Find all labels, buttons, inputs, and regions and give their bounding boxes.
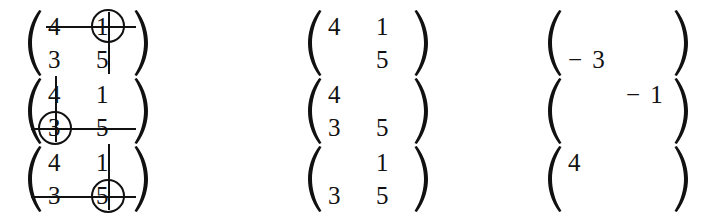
cell-r1c1 [564, 78, 618, 111]
right-parenthesis-icon [412, 78, 428, 144]
left-parenthesis-icon [28, 10, 44, 76]
cell-r1c1: 4 [44, 146, 88, 179]
minor-matrix-row-3-cells: 1 3 5 [324, 146, 412, 212]
cell-r1c2 [368, 78, 412, 111]
cofactor-matrix-row-3: 4 [548, 146, 688, 212]
circled-entry-marker [91, 179, 125, 213]
cell-r1c2: 1 [368, 10, 412, 43]
cell-r2c1: 3 [324, 111, 368, 144]
cofactor-value: − 1 [618, 78, 672, 111]
original-matrix-row-2: 4 1 3 5 [28, 78, 148, 144]
cell-r1c1: 4 [324, 78, 368, 111]
right-parenthesis-icon [672, 146, 688, 212]
minor-matrix-row-1: 4 1 5 [308, 10, 428, 76]
right-parenthesis-icon [672, 78, 688, 144]
minor-matrix-row-2: 4 3 5 [308, 78, 428, 144]
left-parenthesis-icon [548, 10, 564, 76]
cell-r1c2: 1 [88, 146, 132, 179]
cofactor-value: − 3 [564, 43, 618, 76]
minor-matrix-row-1-cells: 4 1 5 [324, 10, 412, 76]
cofactor-figure: 4 1 3 5 4 1 3 5 [0, 0, 701, 218]
cell-r2c1: 3 [44, 43, 88, 76]
cell-r2c2 [618, 179, 672, 212]
left-parenthesis-icon [308, 10, 324, 76]
right-parenthesis-icon [672, 10, 688, 76]
cell-r2c1 [564, 111, 618, 144]
cell-r2c1 [324, 43, 368, 76]
cell-r1c2 [618, 146, 672, 179]
cell-r1c1: 4 [324, 10, 368, 43]
cofactor-matrix-row-1-cells: − 3 [564, 10, 672, 76]
cell-r1c2 [618, 10, 672, 43]
right-parenthesis-icon [412, 146, 428, 212]
cell-r1c2: 1 [88, 78, 132, 111]
minor-matrix-row-2-cells: 4 3 5 [324, 78, 412, 144]
cell-r2c1 [564, 179, 618, 212]
left-parenthesis-icon [548, 78, 564, 144]
circled-entry-marker [91, 9, 125, 43]
cofactor-matrix-row-1: − 3 [548, 10, 688, 76]
left-parenthesis-icon [308, 146, 324, 212]
cell-r1c1 [324, 146, 368, 179]
cofactor-matrix-row-2: − 1 [548, 78, 688, 144]
left-parenthesis-icon [308, 78, 324, 144]
cell-r2c2: 5 [368, 43, 412, 76]
right-parenthesis-icon [132, 78, 148, 144]
cell-r2c2 [618, 43, 672, 76]
original-matrix-row-3: 4 1 3 5 [28, 146, 148, 212]
cofactor-value: 4 [564, 146, 618, 179]
cell-r2c2 [618, 111, 672, 144]
right-parenthesis-icon [132, 146, 148, 212]
cell-r1c1: 4 [44, 78, 88, 111]
circled-entry-marker [38, 111, 72, 145]
left-parenthesis-icon [548, 146, 564, 212]
right-parenthesis-icon [412, 10, 428, 76]
cell-r1c1 [564, 10, 618, 43]
cell-r2c2: 5 [88, 43, 132, 76]
original-matrix-row-1: 4 1 3 5 [28, 10, 148, 76]
minor-matrix-row-3: 1 3 5 [308, 146, 428, 212]
cofactor-matrix-row-3-cells: 4 [564, 146, 672, 212]
right-parenthesis-icon [132, 10, 148, 76]
cofactor-matrix-row-2-cells: − 1 [564, 78, 672, 144]
cell-r2c2: 5 [368, 111, 412, 144]
cell-r2c1: 3 [324, 179, 368, 212]
left-parenthesis-icon [28, 146, 44, 212]
cell-r2c2: 5 [368, 179, 412, 212]
cell-r1c2: 1 [368, 146, 412, 179]
